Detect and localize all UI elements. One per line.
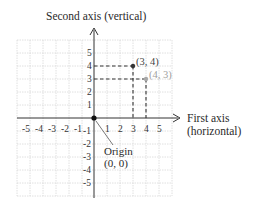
y-tick: -5 [83,178,91,188]
y-tick: 1 [87,100,92,110]
x-tick: -5 [22,124,30,134]
x-tick: 2 [118,124,123,134]
y-tick: -1 [83,126,91,136]
x-axis-label-line1: First axis [187,112,230,124]
x-axis-label-line2: (horizontal) [187,125,241,137]
y-tick: -3 [83,152,91,162]
y-tick: 5 [87,48,92,58]
x-tick: 5 [157,124,162,134]
origin-point [91,115,96,120]
coordinate-plane-diagram: Second axis (vertical) First axis (horiz… [0,0,256,213]
y-tick: 2 [87,87,92,97]
y-tick: -4 [83,165,91,175]
x-tick: 4 [144,124,149,134]
y-tick: 3 [87,74,92,84]
x-tick: 1 [105,124,110,134]
origin-label-line2: (0, 0) [104,157,128,169]
x-tick: 3 [131,124,136,134]
y-tick: -2 [83,139,91,149]
y-tick: 4 [87,61,92,71]
axes [17,28,180,198]
point-label-3-4: (3, 4) [136,56,159,68]
point-4-3 [144,77,148,81]
x-tick: -1 [74,124,82,134]
x-tick: -3 [48,124,56,134]
y-axis-label: Second axis (vertical) [46,10,146,22]
point-label-4-3: (4, 3) [149,69,172,81]
plane-graphic [0,0,256,213]
x-tick: -4 [35,124,43,134]
point-3-4 [131,64,135,68]
x-tick: -2 [61,124,69,134]
origin-label-line1: Origin [104,145,133,157]
